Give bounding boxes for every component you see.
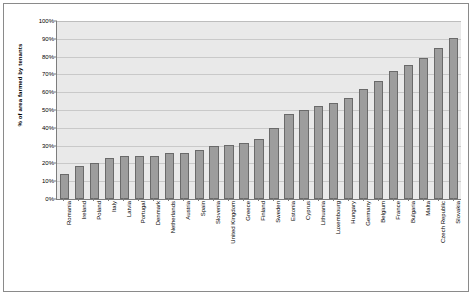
x-tick-mark [123, 198, 124, 201]
x-tick-mark [408, 198, 409, 201]
bar[interactable] [209, 146, 218, 199]
y-axis-tick-label: 30% [42, 143, 54, 149]
x-axis-tick-label: France [395, 201, 401, 220]
bar[interactable] [359, 89, 368, 199]
x-tick-mark [78, 198, 79, 201]
x-axis-tick-label: Slovenia [215, 201, 221, 224]
bar[interactable] [299, 110, 308, 199]
bar[interactable] [434, 48, 443, 199]
x-tick-mark [348, 198, 349, 201]
bar[interactable] [374, 81, 383, 199]
y-axis-tick-label: 50% [42, 107, 54, 113]
x-tick-mark [198, 198, 199, 201]
bar[interactable] [120, 156, 129, 199]
x-axis-tick-label: Italy [111, 201, 117, 212]
x-axis-tick-label: Cyprus [305, 201, 311, 220]
x-axis-tick-label: Greece [245, 201, 251, 221]
x-tick-mark [258, 198, 259, 201]
y-axis-tick-label: 40% [42, 125, 54, 131]
x-axis-tick-label: Ireland [81, 201, 87, 219]
x-axis-tick-label: Malta [425, 201, 431, 216]
x-tick-mark [438, 198, 439, 201]
x-axis-tick-label: Denmark [155, 201, 161, 225]
bar[interactable] [224, 145, 233, 199]
x-axis-tick-label: Luxembourg [335, 201, 341, 234]
x-tick-mark [303, 198, 304, 201]
x-tick-mark [423, 198, 424, 201]
x-axis-tick-label: Austria [185, 201, 191, 220]
y-axis-tick-label: 60% [42, 89, 54, 95]
bar[interactable] [165, 153, 174, 199]
x-tick-mark [93, 198, 94, 201]
x-tick-mark [228, 198, 229, 201]
bar[interactable] [239, 143, 248, 199]
x-tick-mark [288, 198, 289, 201]
x-tick-mark [243, 198, 244, 201]
bar[interactable] [254, 139, 263, 199]
x-axis-tick-label: Romania [66, 201, 72, 225]
x-tick-mark [378, 198, 379, 201]
x-axis-tick-label: Sweden [275, 201, 281, 223]
y-axis-title: % of area farmed by tenants [17, 25, 23, 145]
x-axis-tick-label: Poland [96, 201, 102, 220]
bar[interactable] [329, 103, 338, 199]
bar[interactable] [60, 174, 69, 199]
x-axis-tick-label: Czech Republic [440, 201, 446, 243]
bar[interactable] [419, 58, 428, 199]
bar[interactable] [135, 156, 144, 199]
bar[interactable] [344, 98, 353, 199]
bar[interactable] [150, 156, 159, 199]
bar[interactable] [195, 150, 204, 199]
x-axis-tick-label: Estonia [290, 201, 296, 221]
x-axis-tick-label: Latvia [126, 201, 132, 217]
x-axis-tick-label: Lithuania [320, 201, 326, 225]
x-tick-mark [453, 198, 454, 201]
x-axis-tick-label: Netherlands [170, 201, 176, 233]
x-tick-mark [273, 198, 274, 201]
y-axis-tick-label: 0% [45, 196, 54, 202]
bar[interactable] [389, 71, 398, 199]
x-axis-tick-label: Spain [200, 201, 206, 216]
plot-area: 0%10%20%30%40%50%60%70%80%90%100% [56, 21, 461, 200]
bar[interactable] [449, 38, 458, 199]
bar[interactable] [404, 65, 413, 199]
x-tick-mark [333, 198, 334, 201]
bar[interactable] [75, 166, 84, 199]
y-axis-tick-label: 70% [42, 71, 54, 77]
x-axis-tick-label: United Kingdom [230, 201, 236, 244]
bar[interactable] [269, 128, 278, 199]
x-tick-mark [213, 198, 214, 201]
bar[interactable] [105, 158, 114, 199]
x-axis-tick-label: Finland [260, 201, 266, 221]
y-axis-tick-label: 80% [42, 54, 54, 60]
chart-frame: % of area farmed by tenants 0%10%20%30%4… [3, 3, 469, 292]
x-tick-mark [363, 198, 364, 201]
bar[interactable] [284, 114, 293, 199]
x-axis-tick-label: Hungary [350, 201, 356, 224]
x-axis-tick-label: Belgium [380, 201, 386, 223]
x-axis-tick-label: Bulgaria [410, 201, 416, 223]
bar[interactable] [90, 163, 99, 199]
x-tick-mark [318, 198, 319, 201]
bar[interactable] [314, 106, 323, 199]
y-axis-tick-label: 20% [42, 160, 54, 166]
x-tick-mark [63, 198, 64, 201]
x-axis-tick-label: Slovakia [455, 201, 461, 224]
x-axis-labels: RomaniaIrelandPolandItalyLatviaPortugalD… [56, 201, 460, 297]
x-axis-tick-label: Portugal [140, 201, 146, 223]
bars-layer [57, 21, 461, 199]
y-axis-tick-label: 100% [39, 18, 54, 24]
bar[interactable] [180, 153, 189, 199]
x-axis-tick-label: Germany [365, 201, 371, 226]
x-tick-mark [108, 198, 109, 201]
x-tick-mark [393, 198, 394, 201]
y-axis-tick-label: 90% [42, 36, 54, 42]
y-axis-tick-label: 10% [42, 178, 54, 184]
